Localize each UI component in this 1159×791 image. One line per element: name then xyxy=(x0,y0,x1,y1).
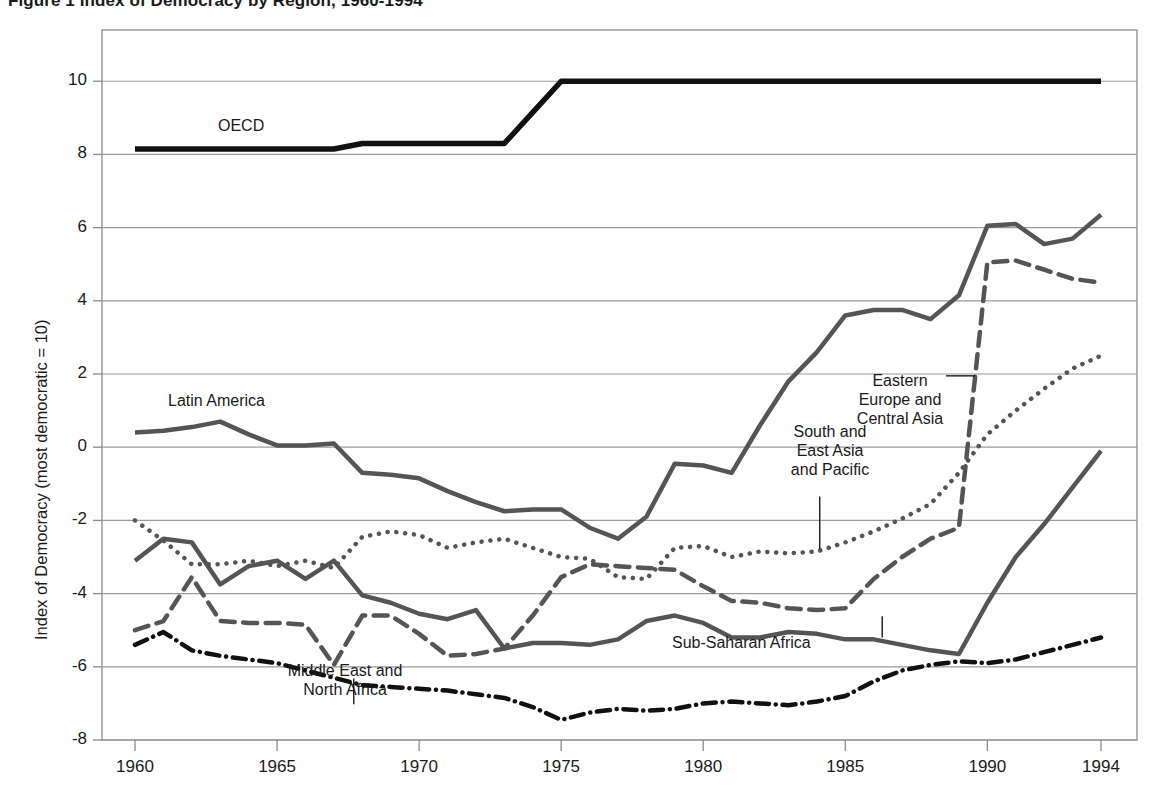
y-tick-label: -8 xyxy=(47,729,87,749)
plot-frame xyxy=(102,30,1137,740)
y-tick-label: -2 xyxy=(47,509,87,529)
x-tick-label: 1970 xyxy=(384,757,454,777)
x-tick-label: 1975 xyxy=(526,757,596,777)
y-tick-label: 6 xyxy=(47,217,87,237)
figure-democracy-index: Figure 1 Index of Democracy by Region, 1… xyxy=(0,0,1159,791)
x-tick-label: 1985 xyxy=(810,757,880,777)
x-tick-label: 1980 xyxy=(668,757,738,777)
series-line-eastern-europe-and-central-asia xyxy=(135,261,1101,665)
x-tick-label: 1960 xyxy=(100,757,170,777)
series-label-latin-america: Latin America xyxy=(168,392,265,411)
series-line-middle-east-and-north-africa xyxy=(135,632,1101,720)
x-tick-label: 1994 xyxy=(1066,757,1136,777)
x-tick-label: 1965 xyxy=(242,757,312,777)
y-tick-label: -4 xyxy=(47,583,87,603)
y-tick-label: 0 xyxy=(47,436,87,456)
y-tick-label: 8 xyxy=(47,143,87,163)
y-tick-label: 2 xyxy=(47,363,87,383)
y-tick-label: -6 xyxy=(47,656,87,676)
series-line-latin-america xyxy=(135,215,1101,539)
series-label-south-east-asia: South and East Asia and Pacific xyxy=(791,423,869,480)
x-tick-label: 1990 xyxy=(952,757,1022,777)
y-tick-label: 10 xyxy=(47,70,87,90)
series-line-south-and-east-asia-and-pacific xyxy=(135,356,1101,579)
series-label-eastern-europe: Eastern Europe and Central Asia xyxy=(857,372,943,429)
series-line-oecd xyxy=(135,81,1101,149)
series-label-sub-saharan: Sub-Saharan Africa xyxy=(672,634,811,653)
y-tick-label: 4 xyxy=(47,290,87,310)
series-label-oecd: OECD xyxy=(218,117,264,136)
series-label-middle-east: Middle East and North Africa xyxy=(288,662,403,700)
